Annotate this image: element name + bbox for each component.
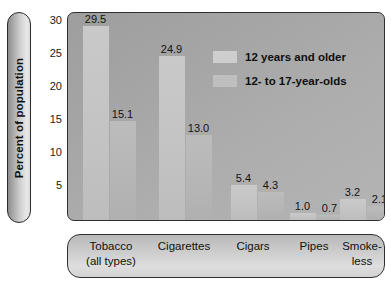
y-tick-5: 5 <box>36 179 62 191</box>
x-category-pipes: Pipes <box>286 239 342 254</box>
x-category-tobacco-line2: (all types) <box>72 254 150 269</box>
legend-item-12-and-older: 12 years and older <box>213 47 347 67</box>
x-category-smokeless-line2: less <box>340 254 384 269</box>
bar-value-label-1-series-2: 13.0 <box>180 122 218 134</box>
bar-value-label-4-series-2: 2.1 <box>361 193 386 205</box>
x-category-cigars: Cigars <box>224 239 282 254</box>
x-category-cigarettes-line1: Cigarettes <box>158 240 210 252</box>
y-axis-label: Percent of population <box>13 57 25 177</box>
bar-0-series-2 <box>110 121 136 220</box>
bar-value-label-0-series-1: 29.5 <box>77 13 115 25</box>
legend-swatch-icon-series-2 <box>213 75 237 87</box>
y-tick-20: 20 <box>36 80 62 92</box>
bar-2-series-2 <box>258 192 284 220</box>
bar-value-label-2-series-2: 4.3 <box>252 179 290 191</box>
y-axis-ticks: 30 25 20 15 10 5 <box>36 0 62 283</box>
y-tick-25: 25 <box>36 47 62 59</box>
x-category-tobacco-line1: Tobacco <box>90 240 133 252</box>
legend-label-series-1: 12 years and older <box>245 51 346 63</box>
legend-swatch-icon-series-1 <box>213 51 237 63</box>
bar-4-series-2 <box>367 206 386 220</box>
x-axis-category-pill: Tobacco (all types) Cigarettes Cigars Pi… <box>67 234 385 278</box>
bar-1-series-2 <box>186 135 212 220</box>
bar-value-label-1-series-1: 24.9 <box>153 43 191 55</box>
x-category-cigarettes: Cigarettes <box>148 239 220 254</box>
x-category-tobacco: Tobacco (all types) <box>72 239 150 269</box>
y-tick-15: 15 <box>36 113 62 125</box>
x-category-smokeless: Smoke- less <box>340 239 384 269</box>
bar-3-series-1 <box>290 213 316 220</box>
legend-item-12-to-17: 12- to 17-year-olds <box>213 71 347 91</box>
x-category-smokeless-line1: Smoke- <box>342 240 382 252</box>
legend: 12 years and older 12- to 17-year-olds <box>213 47 347 95</box>
bar-chart-figure: Percent of population 30 25 20 15 10 5 2… <box>0 0 391 283</box>
legend-label-series-2: 12- to 17-year-olds <box>245 75 347 87</box>
x-category-pipes-line1: Pipes <box>300 240 329 252</box>
bar-1-series-1 <box>159 56 185 220</box>
bars-layer: 29.515.124.913.05.44.31.00.73.22.1 <box>68 13 384 220</box>
bar-0-series-1 <box>83 26 109 220</box>
y-tick-10: 10 <box>36 146 62 158</box>
x-category-cigars-line1: Cigars <box>236 240 269 252</box>
plot-area: 29.515.124.913.05.44.31.00.73.22.1 12 ye… <box>67 12 385 221</box>
y-axis-label-pill: Percent of population <box>7 12 31 223</box>
bar-value-label-0-series-2: 15.1 <box>104 108 142 120</box>
y-tick-30: 30 <box>36 14 62 26</box>
